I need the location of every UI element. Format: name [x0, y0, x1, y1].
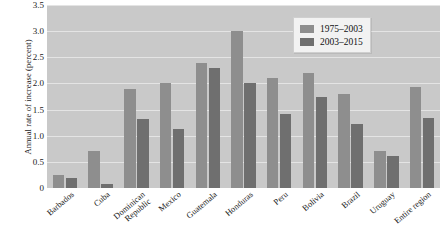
- x-tick-label: Uruguay: [369, 190, 398, 216]
- legend-label: 1975–2003: [320, 24, 363, 34]
- y-tick-label: 0.5: [14, 157, 44, 167]
- x-tick-label-line: Dominican: [72, 190, 147, 250]
- bar: [410, 87, 422, 188]
- x-tick-label-line: Bolivia: [301, 190, 326, 213]
- bar-series-container: [47, 5, 440, 188]
- x-tick-label: Cuba: [92, 190, 111, 208]
- bar: [338, 94, 350, 188]
- x-tick-label: Peru: [272, 190, 290, 207]
- bar: [53, 175, 65, 188]
- bar: [303, 73, 315, 188]
- y-tick-label: 3.0: [14, 26, 44, 36]
- bar: [66, 178, 78, 188]
- legend: 1975–20032003–2015: [293, 17, 371, 53]
- x-tick-label: Brazil: [340, 190, 362, 210]
- bar: [387, 156, 399, 188]
- x-tick-label-line: Cuba: [92, 190, 111, 208]
- bar: [423, 118, 435, 188]
- bar-group: [369, 5, 405, 188]
- x-tick-label-line: Entire region: [393, 190, 433, 226]
- y-tick-label: 1.0: [14, 131, 44, 141]
- y-axis-tick-labels: 00.51.01.52.02.53.03.5: [12, 0, 44, 250]
- x-tick-label: Bolivia: [301, 190, 326, 213]
- bar-group: [118, 5, 154, 188]
- legend-swatch-icon: [300, 25, 314, 33]
- x-tick-label: DominicanRepublic: [72, 190, 152, 250]
- legend-item: 1975–2003: [300, 22, 363, 35]
- bar: [88, 151, 100, 188]
- legend-label: 2003–2015: [320, 37, 363, 47]
- bar: [101, 184, 113, 188]
- x-tick-label: Mexico: [157, 190, 183, 214]
- bar-group: [154, 5, 190, 188]
- plot-area: [47, 5, 440, 188]
- bar: [173, 129, 185, 188]
- y-tick-label: 1.5: [14, 105, 44, 115]
- bar: [137, 119, 149, 188]
- bar-group: [47, 5, 83, 188]
- bar-group: [83, 5, 119, 188]
- legend-item: 2003–2015: [300, 35, 363, 48]
- x-tick-label: Guatemala: [185, 190, 219, 221]
- x-tick-label-line: Uruguay: [369, 190, 398, 216]
- y-tick-label: 0: [14, 183, 44, 193]
- x-tick-label-line: Honduras: [223, 190, 254, 218]
- x-tick-label-line: Mexico: [157, 190, 183, 214]
- x-tick-label: Honduras: [223, 190, 254, 218]
- bar: [351, 124, 363, 188]
- bar-group: [404, 5, 440, 188]
- legend-swatch-icon: [300, 38, 314, 46]
- bar: [231, 31, 243, 188]
- x-tick-label-line: Brazil: [340, 190, 362, 210]
- bar: [267, 78, 279, 188]
- y-tick-label: 2.0: [14, 78, 44, 88]
- bar: [316, 97, 328, 189]
- bar: [160, 83, 172, 188]
- y-tick-label: 3.5: [14, 0, 44, 10]
- bar-group: [226, 5, 262, 188]
- bar: [280, 114, 292, 188]
- bar: [244, 83, 256, 188]
- bar-group: [190, 5, 226, 188]
- y-tick-label: 2.5: [14, 52, 44, 62]
- x-tick-label: Barbados: [45, 190, 75, 217]
- x-tick-label: Entire region: [393, 190, 433, 226]
- x-tick-label-line: Guatemala: [185, 190, 219, 221]
- bar: [374, 151, 386, 188]
- bar: [196, 63, 208, 188]
- bar-group: [261, 5, 297, 188]
- bar-chart: Annual rate of increase (percent) 00.51.…: [0, 0, 446, 250]
- x-axis-tick-labels: BarbadosCubaDominicanRepublicMexicoGuate…: [47, 190, 440, 250]
- x-tick-label-line: Peru: [272, 190, 290, 207]
- bar: [209, 68, 221, 188]
- bar: [124, 89, 136, 188]
- x-tick-label-line: Barbados: [45, 190, 75, 217]
